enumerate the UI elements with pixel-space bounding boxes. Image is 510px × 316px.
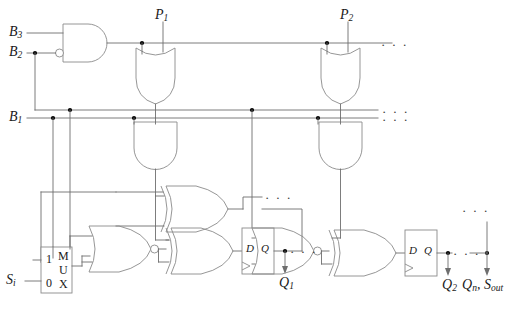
ellipsis-top-row: · · · [381, 38, 409, 51]
ff1-q-label: Q [261, 243, 269, 254]
mux-label-u: U [59, 264, 68, 276]
or-gate-p1 [136, 48, 175, 104]
ff2-q-label: Q [424, 245, 432, 256]
nor-gate-stage1 [89, 226, 159, 272]
mux-input-1-label: 1 [46, 253, 52, 265]
wire-xor-upper-out-up [243, 197, 262, 209]
label-b1: B1 [9, 110, 22, 126]
and-gate-b3-b2 [63, 24, 107, 62]
label-q1: Q1 [279, 276, 294, 292]
arrow-q2 [445, 268, 451, 276]
ellipsis-q2-right: · · · [453, 247, 481, 260]
xor-gate-stage2 [329, 230, 396, 276]
ff1-d-label: D [246, 243, 254, 254]
xor-gate-upper [161, 186, 228, 232]
mux-label-m: M [58, 250, 69, 262]
mux-input-0-label: 0 [46, 277, 52, 289]
label-q2: Q2 [442, 278, 457, 294]
xor-gate-stage1 [166, 228, 233, 274]
arrow-qn [484, 268, 490, 276]
schematic-svg [0, 0, 510, 316]
label-si: Si [6, 273, 16, 289]
or-gate-p2 [321, 48, 360, 104]
label-b2: B2 [9, 45, 22, 61]
ellipsis-q1-right: · · · [290, 245, 318, 258]
ellipsis-mid-right: · · · [265, 191, 293, 204]
and-gate-stage2 [319, 122, 362, 170]
label-qn-sout: Qn, Sout [462, 278, 503, 294]
circuit-diagram-canvas: B3 B2 B1 P1 P2 Si Q1 Q2 Qn, Sout 1 0 M U… [0, 0, 510, 316]
ellipsis-bus-lower: · · · [382, 113, 410, 126]
ellipsis-top-far-right: · · · [462, 204, 490, 217]
inverter-bubble-b2 [56, 49, 64, 57]
mux-label-x: X [59, 278, 68, 290]
label-p2: P2 [340, 8, 353, 24]
label-b3: B3 [9, 25, 22, 41]
and-gate-stage1 [134, 122, 177, 170]
label-p1: P1 [155, 8, 168, 24]
ff2-d-label: D [409, 245, 417, 256]
